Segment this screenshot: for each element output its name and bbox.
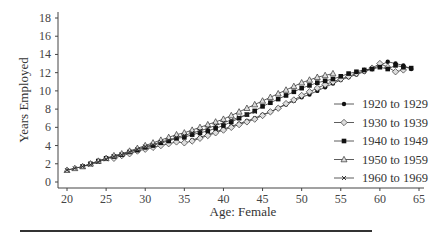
y-tick-label: 12: [39, 66, 51, 80]
y-tick-label: 0: [45, 175, 51, 189]
y-tick-label: 8: [45, 102, 51, 116]
y-tick-label: 16: [39, 29, 51, 43]
legend-label: 1940 to 1949: [362, 134, 428, 148]
legend-item: 1920 to 1929: [334, 97, 428, 111]
legend-item: 1960 to 1969: [334, 171, 428, 185]
y-tick-label: 10: [39, 84, 51, 98]
y-tick-label: 14: [39, 47, 51, 61]
legend-label: 1950 to 1959: [362, 153, 428, 167]
x-axis-label: Age: Female: [210, 204, 277, 219]
x-tick-label: 55: [335, 192, 347, 206]
line-chart: 02468101214161820253035404550556065 1920…: [0, 0, 444, 241]
y-tick-label: 2: [45, 157, 51, 171]
legend-label: 1920 to 1929: [362, 97, 428, 111]
y-tick-label: 6: [45, 120, 51, 134]
y-tick-label: 18: [39, 11, 51, 25]
series-1950-to-1959: [64, 70, 336, 172]
legend-item: 1950 to 1959: [334, 153, 428, 167]
legend-item: 1940 to 1949: [334, 134, 428, 148]
x-tick-label: 35: [178, 192, 190, 206]
y-tick-label: 4: [45, 139, 51, 153]
legend: 1920 to 19291930 to 19391940 to 19491950…: [334, 97, 428, 185]
legend-item: 1930 to 1939: [334, 116, 428, 130]
x-tick-label: 25: [100, 192, 112, 206]
x-tick-label: 60: [374, 192, 386, 206]
legend-label: 1930 to 1939: [362, 116, 428, 130]
x-tick-label: 50: [296, 192, 308, 206]
x-tick-label: 30: [139, 192, 151, 206]
x-tick-label: 65: [413, 192, 425, 206]
legend-label: 1960 to 1969: [362, 171, 428, 185]
x-tick-label: 20: [61, 192, 73, 206]
bottom-rule: [20, 230, 372, 232]
y-axis-label: Years Employed: [16, 57, 31, 143]
